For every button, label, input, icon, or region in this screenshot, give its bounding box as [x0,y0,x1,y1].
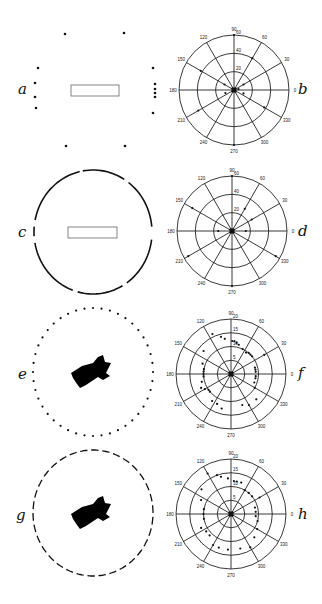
svg-text:270: 270 [227,573,235,578]
svg-text:150: 150 [175,198,183,203]
svg-text:330: 330 [283,118,291,123]
svg-text:60: 60 [262,35,268,40]
svg-text:90: 90 [228,451,234,456]
svg-text:60: 60 [236,30,242,35]
svg-text:180: 180 [167,229,175,234]
illustration-g [0,0,322,604]
svg-text:90: 90 [229,168,235,173]
panel-label-g: g [16,506,26,524]
panel-label-b: b [298,80,308,98]
svg-text:40: 40 [234,189,240,194]
svg-text:180: 180 [166,512,174,517]
svg-text:210: 210 [174,542,182,547]
svg-text:180: 180 [166,372,174,377]
svg-text:5: 5 [233,495,236,500]
panel-label-d: d [298,222,308,240]
svg-text:0: 0 [291,372,294,377]
svg-text:30: 30 [281,341,287,346]
svg-text:240: 240 [198,281,206,286]
svg-text:270: 270 [230,149,238,154]
svg-text:30: 30 [281,481,287,486]
svg-text:0: 0 [294,88,297,93]
svg-text:150: 150 [177,57,185,62]
svg-text:60: 60 [234,171,240,176]
svg-text:90: 90 [228,311,234,316]
svg-text:210: 210 [174,402,182,407]
svg-text:300: 300 [258,424,266,429]
svg-text:5: 5 [233,355,236,360]
svg-text:20: 20 [234,207,240,212]
svg-text:180: 180 [169,88,177,93]
illustration-c [0,0,322,604]
panel-label-f: f [298,364,304,382]
svg-text:20: 20 [236,66,242,71]
svg-text:15: 15 [233,467,239,472]
svg-text:330: 330 [281,259,289,264]
svg-text:20: 20 [233,314,239,319]
svg-text:60: 60 [259,319,265,324]
svg-text:10: 10 [233,341,239,346]
svg-text:240: 240 [197,424,205,429]
svg-text:240: 240 [197,564,205,569]
polar-plot-h: 03060901201501802102402703003305101520 [0,0,322,604]
svg-text:60: 60 [260,176,266,181]
svg-text:30: 30 [282,198,288,203]
svg-text:15: 15 [233,327,239,332]
svg-text:150: 150 [174,341,182,346]
svg-text:240: 240 [200,140,208,145]
svg-text:10: 10 [233,481,239,486]
svg-text:300: 300 [261,140,269,145]
polar-plot-d: 0306090120150180210240270300330204060 [0,0,322,604]
svg-text:40: 40 [236,48,242,53]
svg-text:30: 30 [284,57,290,62]
illustration-a [0,0,322,604]
panel-label-a: a [18,80,27,98]
svg-text:330: 330 [280,542,288,547]
svg-text:300: 300 [259,281,267,286]
svg-text:300: 300 [258,564,266,569]
svg-text:20: 20 [233,454,239,459]
svg-text:120: 120 [197,319,205,324]
animal-silhouette [71,496,111,529]
panel-label-h: h [298,505,308,523]
svg-text:120: 120 [200,35,208,40]
svg-text:210: 210 [175,259,183,264]
svg-text:270: 270 [227,433,235,438]
svg-text:120: 120 [197,459,205,464]
svg-text:270: 270 [228,290,236,295]
svg-text:120: 120 [198,176,206,181]
polar-plot-f: 03060901201501802102402703003305101520 [0,0,322,604]
svg-text:0: 0 [291,512,294,517]
svg-text:150: 150 [174,481,182,486]
animal-silhouette [71,355,111,388]
panel-label-c: c [18,223,26,241]
svg-text:330: 330 [280,402,288,407]
svg-text:60: 60 [259,459,265,464]
svg-text:90: 90 [231,27,237,32]
svg-text:210: 210 [177,118,185,123]
panel-label-e: e [18,365,27,383]
polar-plot-b: 0306090120150180210240270300330204060 [0,0,322,604]
illustration-e [0,0,322,604]
svg-text:0: 0 [292,229,295,234]
